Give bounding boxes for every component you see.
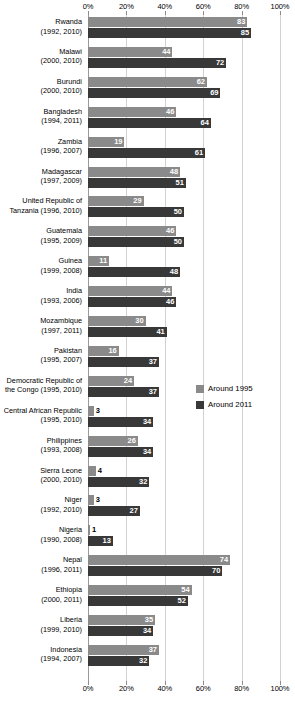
category-label: Zambia(1996, 2007) xyxy=(0,137,82,156)
bar-around-2011: 70 xyxy=(88,566,222,576)
bar-value-label: 74 xyxy=(220,555,228,565)
bar-around-2011: 72 xyxy=(88,58,226,68)
bar-around-1995: 74 xyxy=(88,555,230,565)
axis-tick-mark xyxy=(242,11,243,15)
bar-value-label: 3 xyxy=(96,495,100,505)
bar-value-label: 27 xyxy=(129,506,137,516)
category-label: Madagascar(1997, 2009) xyxy=(0,167,82,186)
category-label: Burundi(2000, 2010) xyxy=(0,77,82,96)
category-country: India xyxy=(0,286,82,296)
bar-around-2011: 48 xyxy=(88,267,180,277)
category-label: Malawi(2000, 2010) xyxy=(0,47,82,66)
category-years: (1993, 2008) xyxy=(0,445,82,455)
category-years: (1997, 2009) xyxy=(0,176,82,186)
bar-around-2011: 46 xyxy=(88,297,176,307)
category-years: (1992, 2010) xyxy=(0,27,82,37)
bar-around-1995: 30 xyxy=(88,316,146,326)
bar-around-1995: 3 xyxy=(88,406,94,416)
bar-around-2011: 69 xyxy=(88,88,220,98)
bar-around-2011: 85 xyxy=(88,28,251,38)
bar-value-label: 69 xyxy=(210,88,218,98)
bar-around-2011: 32 xyxy=(88,477,149,487)
category-years: (1994, 2007) xyxy=(0,654,82,664)
axis-tick-mark xyxy=(126,681,127,685)
x-axis-bottom: 0%20%40%60%80%100% xyxy=(0,684,295,697)
axis-tick-mark xyxy=(88,11,89,15)
category-country: Liberia xyxy=(0,615,82,625)
bar-around-2011: 34 xyxy=(88,626,153,636)
x-axis-tick-label: 0% xyxy=(83,2,94,11)
category-country: Burundi xyxy=(0,77,82,87)
bar-value-label: 52 xyxy=(177,596,185,606)
category-years: (1996, 2007) xyxy=(0,146,82,156)
x-axis-tick-label: 0% xyxy=(83,684,94,693)
bar-value-label: 44 xyxy=(162,286,170,296)
bar-value-label: 34 xyxy=(143,447,151,457)
legend-item: Around 2011 xyxy=(196,396,292,412)
x-axis-top: 0%20%40%60%80%100% xyxy=(0,2,295,15)
bar-value-label: 85 xyxy=(241,28,249,38)
category-label: Democratic Republic ofthe Congo (1995, 2… xyxy=(0,376,82,395)
category-country: Malawi xyxy=(0,47,82,57)
bar-value-label: 61 xyxy=(195,148,203,158)
category-country: Sierra Leone xyxy=(0,466,82,476)
category-label: Guatemala(1995, 2009) xyxy=(0,226,82,245)
category-label: Central African Republic(1995, 2010) xyxy=(0,406,82,425)
bar-around-2011: 37 xyxy=(88,357,159,367)
category-years: (1990, 2008) xyxy=(0,535,82,545)
bar-value-label: 34 xyxy=(143,626,151,636)
bar-value-label: 48 xyxy=(170,167,178,177)
bar-around-2011: 32 xyxy=(88,656,149,666)
category-label: Philippines(1993, 2008) xyxy=(0,436,82,455)
x-axis-tick-label: 20% xyxy=(119,2,134,11)
bar-value-label: 4 xyxy=(98,466,102,476)
bar-value-label: 11 xyxy=(99,256,107,266)
bar-value-label: 34 xyxy=(143,417,151,427)
bar-around-1995: 35 xyxy=(88,615,155,625)
category-years: (2000, 2010) xyxy=(0,475,82,485)
category-country: Ethiopia xyxy=(0,585,82,595)
category-country: United Republic of xyxy=(0,196,82,206)
bar-value-label: 70 xyxy=(212,566,220,576)
axis-tick-mark xyxy=(126,11,127,15)
category-label: Liberia(1999, 2010) xyxy=(0,615,82,634)
bar-around-2011: 27 xyxy=(88,506,140,516)
bar-value-label: 46 xyxy=(166,226,174,236)
bar-around-1995: 44 xyxy=(88,286,172,296)
bar-around-2011: 51 xyxy=(88,178,186,188)
category-label: United Republic ofTanzania (1996, 2010) xyxy=(0,196,82,215)
bar-value-label: 26 xyxy=(128,436,136,446)
bar-around-2011: 50 xyxy=(88,237,184,247)
bar-around-2011: 52 xyxy=(88,596,188,606)
bar-value-label: 13 xyxy=(103,536,111,546)
axis-tick-mark xyxy=(88,681,89,685)
category-years: Tanzania (1996, 2010) xyxy=(0,206,82,216)
category-years: (2000, 2010) xyxy=(0,56,82,66)
category-label: Pakistan(1995, 2007) xyxy=(0,346,82,365)
legend-label: Around 2011 xyxy=(208,397,252,413)
x-axis-tick-label: 100% xyxy=(271,2,290,11)
category-country: Nigeria xyxy=(0,525,82,535)
category-country: Mozambique xyxy=(0,316,82,326)
category-country: Guinea xyxy=(0,256,82,266)
bar-value-label: 50 xyxy=(174,237,182,247)
x-axis-tick-label: 40% xyxy=(157,684,172,693)
category-label: Nepal(1996, 2011) xyxy=(0,555,82,574)
category-years: (1995, 2007) xyxy=(0,355,82,365)
x-axis-tick-label: 60% xyxy=(196,684,211,693)
bar-value-label: 48 xyxy=(170,267,178,277)
category-country: Madagascar xyxy=(0,167,82,177)
gridline xyxy=(203,15,204,681)
axis-tick-mark xyxy=(242,681,243,685)
bar-around-1995: 29 xyxy=(88,196,144,206)
bar-value-label: 19 xyxy=(114,137,122,147)
bar-value-label: 37 xyxy=(149,387,157,397)
bar-value-label: 41 xyxy=(156,327,164,337)
bar-value-label: 46 xyxy=(166,107,174,117)
bar-value-label: 32 xyxy=(139,477,147,487)
category-years: (1997, 2011) xyxy=(0,326,82,336)
category-country: Niger xyxy=(0,495,82,505)
category-country: Indonesia xyxy=(0,645,82,655)
axis-tick-mark xyxy=(203,681,204,685)
category-country: Pakistan xyxy=(0,346,82,356)
